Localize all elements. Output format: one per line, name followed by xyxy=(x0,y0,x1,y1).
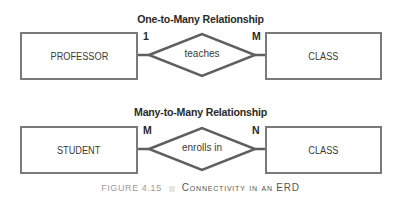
cardinality-left-top: 1 xyxy=(143,30,149,42)
entity-label: CLASS xyxy=(308,145,338,156)
entity-label: PROFESSOR xyxy=(50,51,108,62)
diagram-title-one-to-many: One-to-Many Relationship xyxy=(16,13,385,25)
relationship-label-teaches: teaches xyxy=(162,48,242,59)
cardinality-right-top: M xyxy=(252,30,261,42)
entity-class-bottom: CLASS xyxy=(265,126,382,174)
entity-label: STUDENT xyxy=(57,145,100,156)
relationship-label-enrolls-in: enrolls in xyxy=(162,142,242,153)
caption-separator-square xyxy=(169,186,175,192)
entity-student: STUDENT xyxy=(20,126,138,174)
entity-label: CLASS xyxy=(308,51,338,62)
entity-professor: PROFESSOR xyxy=(20,32,138,80)
figure-number: FIGURE 4.15 xyxy=(101,183,162,193)
cardinality-right-bottom: N xyxy=(252,124,260,136)
diagram-title-many-to-many: Many-to-Many Relationship xyxy=(16,106,385,118)
cardinality-left-bottom: M xyxy=(143,124,152,136)
entity-class-top: CLASS xyxy=(265,32,382,80)
figure-title: Connectivity in an ERD xyxy=(182,182,300,193)
figure-caption: FIGURE 4.15Connectivity in an ERD xyxy=(0,182,401,193)
